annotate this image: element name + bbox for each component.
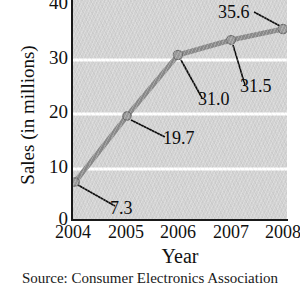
x-tick-label-2006: 2006 (151, 222, 205, 243)
data-label-2008: 35.6 (218, 2, 250, 23)
y-axis-line (71, 0, 73, 220)
x-tick-label-2008: 2008 (256, 222, 300, 243)
data-label-2004: 7.3 (110, 198, 133, 219)
x-tick-label-2007: 2007 (204, 222, 258, 243)
chart-canvas (73, 0, 287, 219)
source-note: Source: Consumer Electronics Association (0, 270, 300, 285)
x-tick-label-2004: 2004 (46, 222, 100, 243)
y-tick-label-10: 10 (28, 156, 68, 178)
data-label-2007: 31.5 (240, 76, 272, 97)
data-markers (73, 24, 287, 186)
line-chart-figure: Sales (in millions) 40 30 20 10 0 (0, 0, 300, 285)
plot-area (73, 0, 287, 219)
data-label-2006: 31.0 (198, 89, 230, 110)
x-axis-line (71, 219, 288, 221)
leader-lines (78, 12, 280, 206)
x-tick-label-2005: 2005 (99, 222, 153, 243)
x-axis-title: Year (73, 245, 287, 268)
y-tick-label-20: 20 (28, 101, 68, 123)
data-label-2005: 19.7 (163, 128, 195, 149)
y-tick-label-40: 40 (28, 0, 68, 14)
y-tick-label-30: 30 (28, 47, 68, 69)
